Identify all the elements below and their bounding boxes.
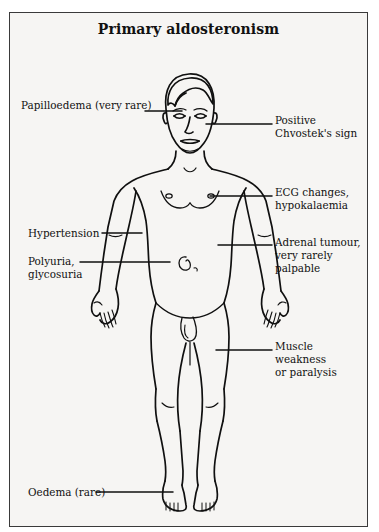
- elbow-right-crease: [258, 235, 271, 237]
- brow-right: [194, 109, 207, 111]
- genitals-outline: [181, 317, 196, 341]
- torso-left-side: [134, 188, 156, 303]
- hip-left: [151, 303, 156, 389]
- thigh-right-inner: [194, 343, 202, 431]
- annotation-label-ecg-changes: ECG changes, hypokalaemia: [275, 186, 349, 212]
- navel: [179, 257, 190, 270]
- pectoral-left: [161, 191, 190, 208]
- nipple-right: [208, 194, 214, 198]
- sternal-notch: [184, 168, 196, 172]
- hand-left-outer: [92, 291, 100, 316]
- brow-left: [173, 109, 186, 111]
- annotation-label-chvostek: Positive Chvostek's sign: [275, 114, 357, 140]
- annotation-label-hypertension: Hypertension: [28, 227, 99, 240]
- nose: [185, 117, 193, 134]
- page-canvas: Primary aldosteronism: [0, 0, 379, 532]
- torso-right-side: [224, 188, 246, 303]
- eye-left: [174, 114, 185, 116]
- hand-right-inner: [262, 289, 280, 324]
- annotation-label-papilloedema: Papilloedema (very rare): [21, 99, 151, 112]
- annotation-label-muscle-weakness: Muscle weakness or paralysis: [275, 340, 367, 379]
- knee-right-crease: [206, 403, 218, 407]
- hip-right: [224, 303, 229, 389]
- calf-right-outer: [214, 421, 223, 481]
- calf-right-inner: [197, 431, 200, 485]
- knee-left-crease: [162, 403, 174, 407]
- annotation-label-adrenal-tumour: Adrenal tumour, very rarely palpable: [275, 236, 367, 275]
- mouth-lower: [181, 141, 199, 143]
- mouth-upper: [181, 140, 199, 142]
- page-corner-mark: [2, 0, 32, 6]
- eye-left-lower: [174, 116, 185, 118]
- neck-left: [168, 151, 176, 169]
- annotation-label-polyuria: Polyuria, glycosuria: [28, 255, 82, 281]
- arm-left-inner: [116, 191, 136, 289]
- arm-right-inner: [244, 191, 264, 289]
- thumb-left: [94, 302, 102, 305]
- pectoral-right: [190, 191, 219, 208]
- calf-left-outer: [157, 421, 166, 481]
- torso-right-arm-outer: [212, 169, 281, 291]
- thigh-left-inner: [178, 343, 186, 431]
- annotation-label-oedema: Oedema (rare): [28, 486, 105, 499]
- hair-outline: [168, 78, 213, 106]
- hand-left-inner: [100, 289, 118, 324]
- inguinal-crease: [156, 303, 224, 318]
- torso-left-arm-outer: [99, 169, 168, 291]
- calf-left-inner: [180, 431, 183, 485]
- neck-right: [204, 151, 212, 169]
- thumb-right: [278, 302, 286, 305]
- nipple-left: [166, 194, 172, 198]
- figure-box: Primary aldosteronism: [9, 12, 368, 527]
- hand-right-outer: [280, 291, 288, 316]
- eye-right: [195, 114, 206, 116]
- knee-right-outer: [223, 389, 225, 421]
- eye-right-lower: [195, 116, 206, 118]
- knee-left-outer: [155, 389, 157, 421]
- genitals-inner: [185, 325, 188, 338]
- elbow-left-crease: [109, 235, 122, 237]
- navel-crease: [194, 268, 197, 271]
